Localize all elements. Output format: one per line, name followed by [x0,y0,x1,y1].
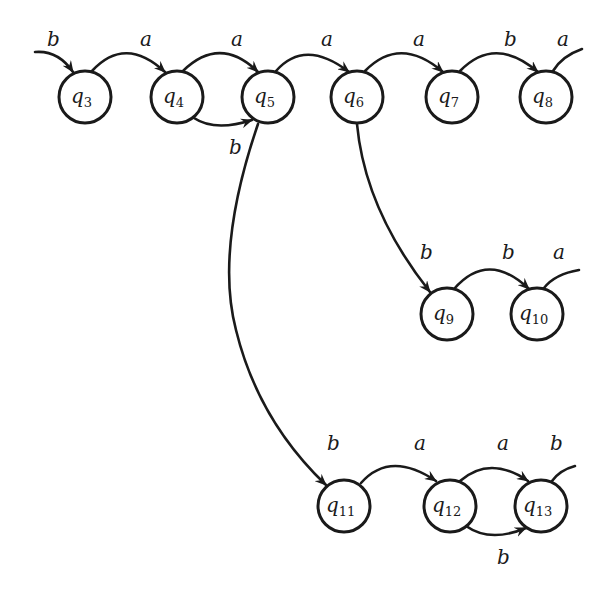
edge-q3-q4 [92,53,165,72]
label-q10-out: a [553,240,565,264]
edge-q6-q7 [365,53,443,72]
state-q13: q13 [515,480,567,532]
transitions [35,49,582,535]
state-q6: q6 [331,71,383,123]
state-q9: q9 [421,288,473,340]
edge-q12-q13-a [460,468,528,481]
edge-q6-q9 [357,124,430,292]
label-in-q3: b [47,27,60,51]
label-q6-q9: b [420,240,433,264]
edge-q10-out [544,270,579,288]
label-q6-q7: a [413,27,425,51]
state-q8: q8 [520,71,572,123]
edge-q5-q6 [276,55,349,72]
label-q3-q4: a [140,27,152,51]
label-q12-q13-bottom: b [497,545,510,569]
label-q13-out: b [550,431,563,455]
state-q4: q4 [151,71,203,123]
label-q5-q6: a [321,27,333,51]
edge-q12-q13-b [466,526,526,535]
label-q5-q11: b [327,431,340,455]
state-q3: q3 [59,71,111,123]
label-q11-q12: a [414,431,426,455]
edge-q4-q5-b [194,118,252,126]
edge-q5-q11 [229,124,326,485]
transition-labels: b a a b a a b a b b a b a a b b [47,27,569,569]
label-q4-q5-bottom: b [229,135,242,159]
label-q4-q5-top: a [231,27,243,51]
edge-q4-q5-a [183,53,258,72]
states: q3 q4 q5 q6 q7 q8 q9 q10 [59,71,572,532]
state-q10: q10 [511,288,563,340]
state-q11: q11 [318,480,370,532]
edge-q9-q10 [454,270,529,290]
edge-q8-out [553,49,582,71]
state-q7: q7 [426,71,478,123]
label-q9-q10: b [502,240,515,264]
edge-in-q3 [35,52,73,72]
label-q7-q8: b [504,27,517,51]
state-q12: q12 [424,480,476,532]
label-q12-q13-top: a [497,431,509,455]
edge-q13-out [552,466,575,481]
automaton-diagram: b a a b a a b a b b a b a a b b q3 q4 q5… [0,0,607,606]
label-q8-out: a [557,27,569,51]
edge-q11-q12 [361,466,436,483]
state-q5: q5 [242,71,294,123]
edge-q7-q8 [460,53,538,72]
